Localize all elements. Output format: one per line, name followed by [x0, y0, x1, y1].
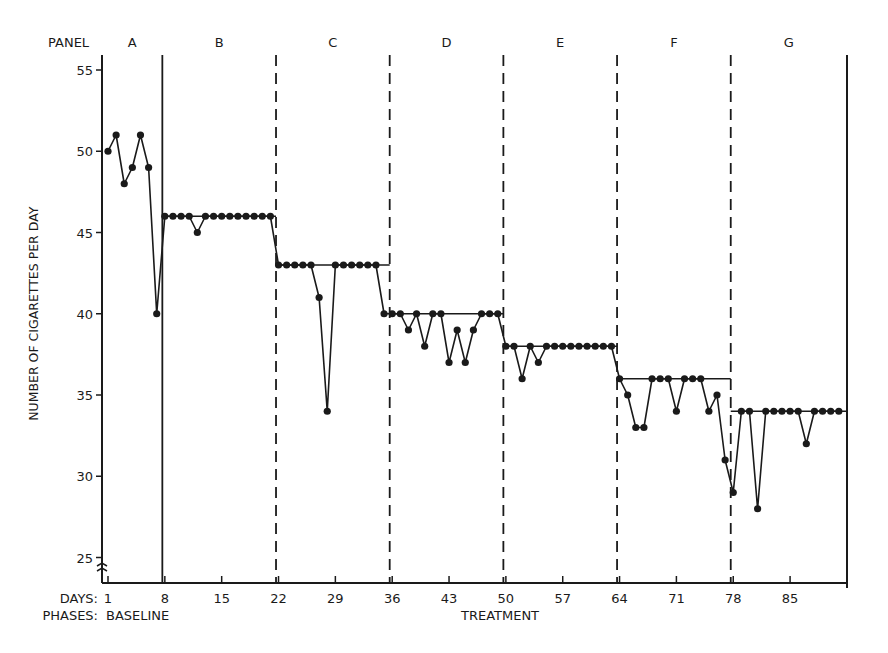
data-point: [340, 261, 347, 268]
data-point: [194, 229, 201, 236]
data-point: [713, 391, 720, 398]
data-point: [462, 359, 469, 366]
data-point: [429, 310, 436, 317]
phase-treatment-label: TREATMENT: [460, 608, 539, 623]
data-point: [697, 375, 704, 382]
data-point: [738, 408, 745, 415]
data-point: [299, 261, 306, 268]
data-point: [600, 343, 607, 350]
data-point: [153, 310, 160, 317]
data-point: [795, 408, 802, 415]
x-tick-label: 50: [498, 591, 515, 606]
cigarettes-per-day-chart: 25303540455055181522293643505764717885NU…: [0, 0, 888, 653]
data-point: [689, 375, 696, 382]
data-point: [722, 456, 729, 463]
data-point: [275, 261, 282, 268]
x-tick-label: 22: [270, 591, 287, 606]
data-point: [835, 408, 842, 415]
data-point: [567, 343, 574, 350]
data-point: [291, 261, 298, 268]
data-point: [251, 213, 258, 220]
data-point: [559, 343, 566, 350]
data-point: [519, 375, 526, 382]
data-point: [762, 408, 769, 415]
data-point: [437, 310, 444, 317]
data-point: [592, 343, 599, 350]
data-point: [575, 343, 582, 350]
data-point: [551, 343, 558, 350]
data-point: [186, 213, 193, 220]
phase-baseline-label: BASELINE: [106, 608, 169, 623]
data-point: [778, 408, 785, 415]
data-point: [405, 326, 412, 333]
data-point: [177, 213, 184, 220]
panel-dividers: [162, 55, 847, 588]
data-point: [218, 213, 225, 220]
panel-label-e: E: [556, 35, 564, 50]
x-tick-label: 78: [725, 591, 742, 606]
data-point: [202, 213, 209, 220]
data-point: [129, 164, 136, 171]
axes: [96, 55, 847, 583]
data-point: [389, 310, 396, 317]
panel-header: PANEL: [48, 35, 90, 50]
data-point: [145, 164, 152, 171]
x-tick-label: 85: [782, 591, 799, 606]
y-tick-label: 45: [76, 226, 93, 241]
y-tick-label: 55: [76, 63, 93, 78]
data-point: [754, 505, 761, 512]
data-point: [494, 310, 501, 317]
data-point: [770, 408, 777, 415]
panel-label-f: F: [670, 35, 677, 50]
data-point: [421, 343, 428, 350]
x-tick-label: 29: [327, 591, 344, 606]
panel-label-a: A: [128, 35, 137, 50]
x-tick-label: 36: [384, 591, 401, 606]
data-point: [803, 440, 810, 447]
data-point: [137, 131, 144, 138]
data-point: [746, 408, 753, 415]
y-tick-label: 50: [76, 144, 93, 159]
data-point: [648, 375, 655, 382]
x-tick-label: 57: [554, 591, 571, 606]
data-point: [673, 408, 680, 415]
data-point: [608, 343, 615, 350]
data-point: [121, 180, 128, 187]
y-tick-label: 25: [76, 551, 93, 566]
data-point: [316, 294, 323, 301]
data-point: [624, 391, 631, 398]
criterion-lines: [162, 216, 847, 411]
data-point: [786, 408, 793, 415]
data-point: [397, 310, 404, 317]
y-tick-label: 35: [76, 388, 93, 403]
data-point: [380, 310, 387, 317]
data-point: [210, 213, 217, 220]
data-point: [454, 326, 461, 333]
panel-label-d: D: [442, 35, 452, 50]
data-point: [640, 424, 647, 431]
y-axis-label: NUMBER OF CIGARETTES PER DAY: [26, 206, 41, 421]
x-tick-label: 1: [104, 591, 112, 606]
x-tick-label: 71: [668, 591, 685, 606]
data-point: [657, 375, 664, 382]
data-point: [811, 408, 818, 415]
data-point: [486, 310, 493, 317]
phases-label: PHASES:: [42, 608, 98, 623]
data-point: [332, 261, 339, 268]
data-point: [356, 261, 363, 268]
data-series: [104, 131, 842, 512]
data-point: [681, 375, 688, 382]
x-tick-label: 64: [611, 591, 628, 606]
data-line: [108, 135, 839, 509]
x-tick-label: 15: [213, 591, 230, 606]
data-point: [510, 343, 517, 350]
data-point: [113, 131, 120, 138]
data-point: [413, 310, 420, 317]
days-label: DAYS:: [60, 591, 98, 606]
data-point: [535, 359, 542, 366]
data-point: [827, 408, 834, 415]
data-point: [445, 359, 452, 366]
data-point: [819, 408, 826, 415]
data-point: [161, 213, 168, 220]
data-point: [665, 375, 672, 382]
